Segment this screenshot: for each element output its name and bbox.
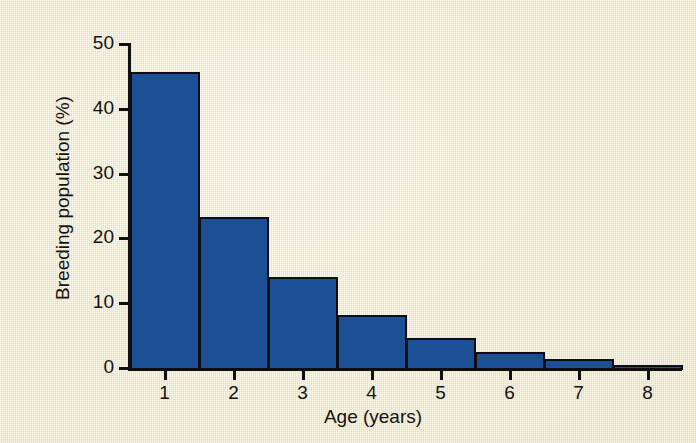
y-tick-label-40: 40 <box>78 97 114 119</box>
y-tick-10 <box>119 302 129 305</box>
x-tick-7 <box>578 371 581 380</box>
chart-figure: 01020304050 12345678 Age (years) Breedin… <box>0 0 696 443</box>
x-tick-6 <box>509 371 512 380</box>
x-tick-5 <box>440 371 443 380</box>
x-tick-label-6: 6 <box>490 382 530 404</box>
y-tick-30 <box>119 173 129 176</box>
bar-age-1 <box>130 72 200 370</box>
y-tick-label-10: 10 <box>78 291 114 313</box>
y-tick-50 <box>119 43 129 46</box>
y-tick-label-20: 20 <box>78 226 114 248</box>
bar-age-4 <box>337 315 407 370</box>
y-tick-label-0: 0 <box>78 356 114 378</box>
bar-age-2 <box>199 217 269 370</box>
x-axis-title: Age (years) <box>0 406 696 428</box>
x-tick-label-3: 3 <box>283 382 323 404</box>
x-tick-2 <box>233 371 236 380</box>
x-tick-label-4: 4 <box>352 382 392 404</box>
bar-age-7 <box>544 359 614 370</box>
y-tick-label-50: 50 <box>78 32 114 54</box>
x-tick-1 <box>164 371 167 380</box>
x-axis-title-text: Age (years) <box>324 406 422 428</box>
bar-age-3 <box>268 277 338 370</box>
y-tick-0 <box>119 367 129 370</box>
bar-age-6 <box>475 352 545 370</box>
y-tick-label-30: 30 <box>78 162 114 184</box>
x-tick-8 <box>647 371 650 380</box>
y-tick-40 <box>119 108 129 111</box>
x-tick-label-5: 5 <box>421 382 461 404</box>
plot-area: 01020304050 12345678 Age (years) Breedin… <box>0 0 696 443</box>
y-tick-20 <box>119 237 129 240</box>
x-tick-label-2: 2 <box>214 382 254 404</box>
x-tick-label-1: 1 <box>145 382 185 404</box>
x-tick-label-7: 7 <box>559 382 599 404</box>
bar-age-8 <box>613 365 683 370</box>
x-tick-3 <box>302 371 305 380</box>
y-axis-title-text: Breeding population (%) <box>45 36 81 360</box>
x-tick-label-8: 8 <box>628 382 668 404</box>
bar-age-5 <box>406 338 476 370</box>
x-tick-4 <box>371 371 374 380</box>
